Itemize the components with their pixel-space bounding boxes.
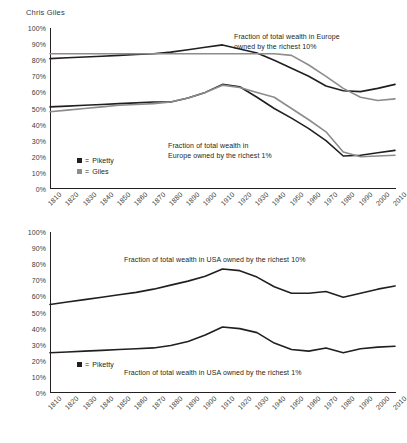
x-axis-labels-usa: 1810182018301840185018601870188018901900…	[50, 394, 400, 434]
y-tick-label: 100%	[0, 25, 46, 32]
y-tick-label: 70%	[0, 277, 46, 284]
legend-item-piketty: = Piketty	[77, 361, 114, 368]
legend-label-piketty: Piketty	[92, 361, 114, 368]
y-tick-label: 100%	[0, 229, 46, 236]
y-tick-label: 40%	[0, 121, 46, 128]
black-square-icon	[77, 362, 82, 367]
y-tick-label: 20%	[0, 357, 46, 364]
chart-panel-usa: 100%90%80%70%60%50%40%30%20%10%0% 181018…	[0, 228, 407, 440]
chart-page: Chris Giles 100%90%80%70%60%50%40%30%20%…	[0, 0, 407, 443]
x-tick-label: 1970	[322, 191, 338, 207]
y-tick-label: 60%	[0, 293, 46, 300]
x-tick-label: 1960	[305, 395, 321, 411]
x-tick-label: 1930	[253, 191, 269, 207]
x-tick-label: 1890	[184, 395, 200, 411]
x-tick-label: 1980	[340, 191, 356, 207]
x-tick-label: 1820	[64, 395, 80, 411]
legend-usa: = Piketty	[77, 361, 114, 372]
x-tick-label: 2000	[374, 395, 390, 411]
x-tick-label: 1850	[115, 191, 131, 207]
y-tick-label: 0%	[0, 390, 46, 397]
x-tick-label: 1810	[46, 191, 62, 207]
y-tick-label: 0%	[0, 186, 46, 193]
legend-item-giles: = Giles	[77, 168, 114, 175]
x-tick-label: 1910	[219, 395, 235, 411]
series-line-piketty-richest-10-	[50, 269, 395, 304]
annotation-usa-top: Fraction of total wealth in USA owned by…	[124, 255, 305, 265]
annotation-usa-bottom: Fraction of total wealth in USA owned by…	[124, 368, 301, 378]
series-line-giles-richest-10-	[50, 54, 395, 101]
legend-label-giles: Giles	[92, 168, 108, 175]
x-tick-label: 1990	[357, 191, 373, 207]
x-tick-label: 1970	[322, 395, 338, 411]
x-tick-label: 1990	[357, 395, 373, 411]
legend-europe: = Piketty = Giles	[77, 157, 114, 179]
y-tick-label: 60%	[0, 89, 46, 96]
y-tick-label: 10%	[0, 373, 46, 380]
x-tick-label: 1880	[167, 191, 183, 207]
x-tick-label: 1920	[236, 395, 252, 411]
x-tick-label: 1900	[202, 191, 218, 207]
x-tick-label: 1860	[133, 395, 149, 411]
x-tick-label: 1820	[64, 191, 80, 207]
y-tick-label: 70%	[0, 73, 46, 80]
chart-panel-europe: 100%90%80%70%60%50%40%30%20%10%0% 181018…	[0, 24, 407, 224]
y-tick-label: 80%	[0, 57, 46, 64]
x-tick-label: 1940	[271, 191, 287, 207]
x-tick-label: 1950	[288, 395, 304, 411]
x-tick-label: 1890	[184, 191, 200, 207]
x-tick-label: 1830	[81, 191, 97, 207]
x-tick-label: 1870	[150, 395, 166, 411]
legend-equals: =	[85, 168, 89, 175]
x-tick-label: 1900	[202, 395, 218, 411]
legend-equals: =	[85, 361, 89, 368]
x-tick-label: 1840	[98, 395, 114, 411]
y-tick-label: 90%	[0, 245, 46, 252]
legend-equals: =	[85, 157, 89, 164]
x-tick-label: 1950	[288, 191, 304, 207]
y-tick-label: 40%	[0, 325, 46, 332]
black-square-icon	[77, 158, 82, 163]
x-axis-labels-europe: 1810182018301840185018601870188018901900…	[50, 190, 400, 230]
x-tick-label: 2000	[374, 191, 390, 207]
y-tick-label: 80%	[0, 261, 46, 268]
x-tick-label: 1860	[133, 191, 149, 207]
x-tick-label: 1940	[271, 395, 287, 411]
y-tick-label: 30%	[0, 341, 46, 348]
x-tick-label: 1840	[98, 191, 114, 207]
y-tick-label: 10%	[0, 169, 46, 176]
legend-label-piketty: Piketty	[92, 157, 114, 164]
x-tick-label: 1850	[115, 395, 131, 411]
x-tick-label: 1930	[253, 395, 269, 411]
series-line-piketty-richest-1-	[50, 327, 395, 353]
x-tick-label: 1920	[236, 191, 252, 207]
x-tick-label: 1810	[46, 395, 62, 411]
x-tick-label: 2010	[391, 191, 407, 207]
y-tick-label: 50%	[0, 105, 46, 112]
legend-item-piketty: = Piketty	[77, 157, 114, 164]
x-tick-label: 1870	[150, 191, 166, 207]
y-tick-label: 90%	[0, 41, 46, 48]
gray-square-icon	[77, 169, 82, 174]
x-tick-label: 1880	[167, 395, 183, 411]
x-tick-label: 1830	[81, 395, 97, 411]
annotation-europe-top: Fraction of total wealth in Europe owned…	[234, 32, 340, 52]
y-tick-label: 50%	[0, 309, 46, 316]
x-tick-label: 1910	[219, 191, 235, 207]
annotation-europe-bottom: Fraction of total wealth in Europe owned…	[168, 141, 272, 161]
x-tick-label: 2010	[391, 395, 407, 411]
byline: Chris Giles	[26, 8, 65, 17]
x-tick-label: 1980	[340, 395, 356, 411]
y-tick-label: 30%	[0, 137, 46, 144]
y-axis-labels-usa: 100%90%80%70%60%50%40%30%20%10%0%	[0, 228, 46, 396]
y-axis-labels-europe: 100%90%80%70%60%50%40%30%20%10%0%	[0, 24, 46, 192]
y-tick-label: 20%	[0, 153, 46, 160]
x-tick-label: 1960	[305, 191, 321, 207]
